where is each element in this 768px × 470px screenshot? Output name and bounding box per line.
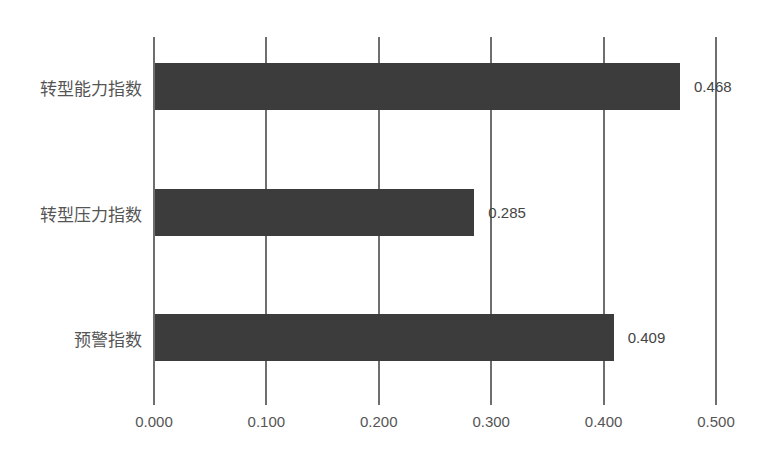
category-label: 转型能力指数 bbox=[0, 75, 142, 100]
category-label: 预警指数 bbox=[0, 326, 142, 351]
category-label: 转型压力指数 bbox=[0, 201, 142, 226]
x-tick-label: 0.100 bbox=[231, 413, 301, 430]
data-label: 0.285 bbox=[488, 204, 526, 221]
x-tick-label: 0.500 bbox=[681, 413, 751, 430]
horizontal-bar-chart: 0.0000.1000.2000.3000.4000.500 转型能力指数转型压… bbox=[0, 0, 768, 470]
data-label: 0.409 bbox=[628, 329, 666, 346]
bar bbox=[155, 63, 680, 110]
x-tick-label: 0.000 bbox=[119, 413, 189, 430]
bar bbox=[155, 189, 474, 236]
x-tick-label: 0.400 bbox=[569, 413, 639, 430]
x-tick-label: 0.300 bbox=[456, 413, 526, 430]
bar bbox=[155, 314, 614, 361]
x-tick-label: 0.200 bbox=[344, 413, 414, 430]
data-label: 0.468 bbox=[694, 78, 732, 95]
